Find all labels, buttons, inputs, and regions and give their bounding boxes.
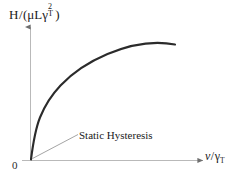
figure-container: H/(μLγ2T) ν/γT 0 Static Hysteresis (0, 0, 236, 186)
origin-label: 0 (12, 160, 18, 171)
x-axis-subscript: T (220, 156, 225, 165)
data-curve-static-hysteresis (31, 43, 175, 160)
y-axis-subscript: T (48, 10, 53, 18)
y-axis-label: H/(μLγ2T) (9, 6, 60, 21)
static-hysteresis-annotation: Static Hysteresis (79, 130, 153, 141)
y-axis-numerator: H (9, 7, 18, 22)
y-axis-gamma-indices: 2T (48, 6, 55, 19)
y-axis-close-paren: ) (55, 7, 59, 22)
plot-canvas (0, 0, 236, 186)
x-axis-label: ν/γT (205, 150, 225, 162)
annotation-leader-line (33, 135, 79, 159)
